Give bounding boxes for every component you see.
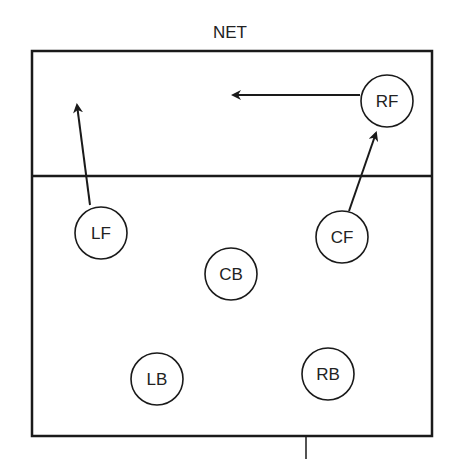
svg-text:RF: RF [376,92,399,111]
player-cf: CF [316,211,368,263]
player-cb: CB [205,248,257,300]
player-rf: RF [361,75,413,127]
svg-text:CF: CF [331,228,354,247]
svg-text:LF: LF [91,224,111,243]
player-lb: LB [131,353,183,405]
svg-text:CB: CB [219,265,243,284]
arrow-lf [77,105,90,205]
svg-text:RB: RB [316,365,340,384]
net-label: NET [213,23,247,42]
player-rb: RB [302,348,354,400]
svg-text:LB: LB [147,370,168,389]
volleyball-court-diagram: NET LF CF RF CB LB RB [0,0,460,475]
arrow-cf [349,133,376,211]
player-lf: LF [75,207,127,259]
